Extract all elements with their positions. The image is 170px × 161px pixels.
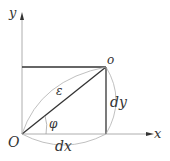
strain-diagram: y x O o ε φ dx dy (0, 0, 170, 161)
y-axis-label: y (8, 5, 17, 20)
phi-label: φ (49, 117, 58, 131)
x-axis-arrow-icon (146, 132, 154, 136)
x-axis-label: x (154, 126, 162, 141)
y-axis-arrow-icon (20, 12, 24, 20)
origin-label: O (8, 134, 20, 150)
point-label: o (107, 53, 114, 67)
epsilon-label: ε (56, 84, 62, 98)
diagonal-line (22, 67, 106, 134)
dy-label: dy (110, 94, 128, 110)
dx-label: dx (55, 138, 72, 154)
phi-arc (45, 116, 47, 134)
